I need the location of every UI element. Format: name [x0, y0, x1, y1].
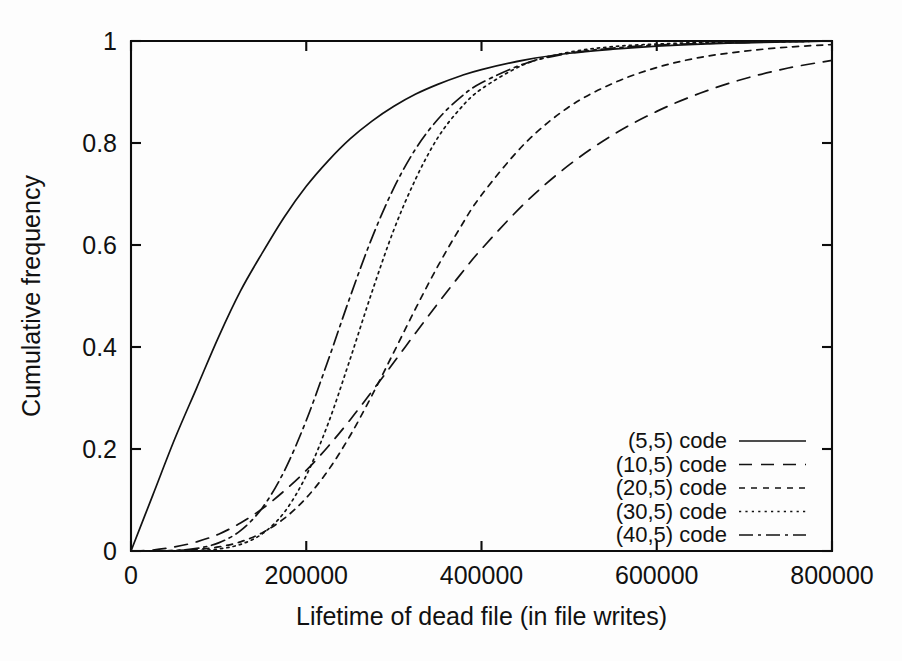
y-tick-label: 0.6: [82, 231, 117, 259]
x-tick-label: 600000: [615, 561, 698, 589]
y-tick-label: 0.4: [82, 333, 117, 361]
legend-label-405code: (40,5) code: [616, 522, 727, 547]
y-tick-label: 1: [103, 27, 117, 55]
legend-label-305code: (30,5) code: [616, 499, 727, 524]
figure-canvas: 0200000400000600000800000 00.20.40.60.81…: [0, 0, 902, 661]
x-tick-label: 800000: [790, 561, 873, 589]
legend-label-105code: (10,5) code: [616, 452, 727, 477]
y-tick-label: 0: [103, 537, 117, 565]
y-tick-label: 0.8: [82, 129, 117, 157]
cdf-chart: 0200000400000600000800000 00.20.40.60.81…: [0, 0, 902, 661]
y-tick-label: 0.2: [82, 435, 117, 463]
y-axis-title: Cumulative frequency: [17, 175, 45, 417]
y-tick-labels: 00.20.40.60.81: [82, 27, 117, 565]
x-axis-title: Lifetime of dead file (in file writes): [296, 602, 667, 630]
x-tick-labels: 0200000400000600000800000: [124, 561, 874, 589]
x-tick-label: 400000: [440, 561, 523, 589]
x-tick-label: 200000: [265, 561, 348, 589]
x-tick-label: 0: [124, 561, 138, 589]
legend-label-205code: (20,5) code: [616, 475, 727, 500]
legend-label-55code: (5,5) code: [628, 428, 727, 453]
legend: (5,5) code(10,5) code(20,5) code(30,5) c…: [616, 428, 806, 547]
